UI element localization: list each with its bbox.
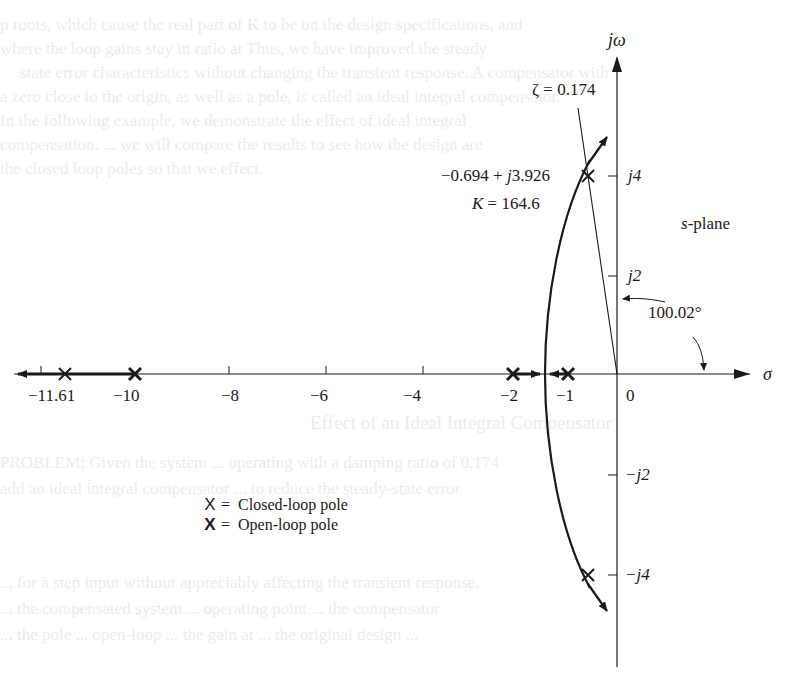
x-tick-label: −1 [556,386,574,406]
y-ticks [608,176,617,575]
sigma-axis-label: σ [763,364,772,385]
y-tick-label: j2 [628,266,641,286]
closed-loop-pole-icon: X [203,495,217,515]
legend-equals: = [221,496,230,514]
s-plane-s: s [681,214,688,233]
gain-label: K = 164.6 [472,194,540,214]
zeta-label: ζ = 0.174 [532,80,595,100]
y-tick-label: −j2 [625,465,650,485]
s-plane-label: s-plane [681,214,730,234]
x-tick-label: −10 [113,386,140,406]
x-tick-label: −4 [403,386,421,406]
operating-point-label: −0.694 + j3.926 [441,166,550,186]
x-tick-label: −11.61 [28,386,75,406]
legend: X = Closed-loop pole X = Open-loop pole [203,495,348,535]
x-tick-label: 0 [626,386,635,406]
op-suffix: 3.926 [512,166,550,185]
s-plane-rest: -plane [688,214,730,233]
legend-text: Open-loop pole [238,516,338,534]
gain-value: = 164.6 [483,194,539,213]
open-loop-pole-icon: X [203,515,217,535]
x-tick-label: −8 [221,386,239,406]
root-locus-plot [0,0,803,677]
y-tick-label: −j4 [625,565,650,585]
x-tick-label: −6 [310,386,328,406]
y-tick-label: j4 [628,166,641,186]
x-tick-label: −2 [500,386,518,406]
legend-item-closed-loop: X = Closed-loop pole [203,495,348,515]
legend-equals: = [221,516,230,534]
jw-axis-label: jω [608,30,626,51]
closed-loop-pole-marker [582,170,594,182]
legend-text: Closed-loop pole [238,496,348,514]
legend-item-open-loop: X = Open-loop pole [203,515,348,535]
angle-label: 100.02° [648,303,702,323]
gain-k: K [472,194,483,213]
op-prefix: −0.694 + [441,166,507,185]
damping-ratio-line [578,108,617,374]
